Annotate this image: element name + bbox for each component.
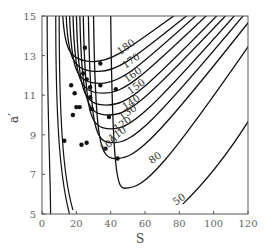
data-point: [115, 156, 119, 160]
y-tick-label: 9: [30, 130, 36, 141]
data-point: [88, 85, 92, 89]
contour-chart: 1801701601501401301201101008050 02040608…: [0, 0, 268, 249]
y-tick-label: 13: [23, 51, 36, 62]
data-point: [83, 45, 87, 49]
data-point: [107, 115, 111, 119]
data-point: [114, 87, 118, 91]
x-tick-label: 100: [204, 218, 223, 229]
x-tick-label: 120: [238, 218, 257, 229]
data-point: [62, 139, 66, 143]
x-axis-title: S: [136, 232, 144, 246]
x-tick-label: 60: [139, 218, 152, 229]
data-point: [84, 141, 88, 145]
y-tick-label: 15: [23, 11, 36, 22]
data-point: [79, 143, 83, 147]
contour-lines: [47, 12, 268, 214]
data-point: [84, 77, 88, 81]
x-tick-label: 20: [70, 218, 83, 229]
contour-label-50: 50: [171, 191, 188, 207]
y-tick-label: 11: [23, 90, 36, 101]
x-tick-label: 0: [39, 218, 45, 229]
data-point: [72, 91, 76, 95]
data-point: [98, 61, 102, 65]
y-axis-title: a′: [7, 113, 21, 123]
y-tick-label: 7: [30, 169, 36, 180]
contour-50: [183, 119, 250, 204]
data-point: [90, 107, 94, 111]
contour-label-80: 80: [147, 150, 164, 166]
y-tick-label: 5: [30, 209, 36, 220]
data-point: [69, 83, 73, 87]
contour-left-branch: [47, 12, 50, 214]
x-tick-label: 80: [173, 218, 186, 229]
data-point: [88, 95, 92, 99]
data-point: [81, 71, 85, 75]
data-point: [78, 105, 82, 109]
data-point: [71, 113, 75, 117]
contour-140: [76, 12, 220, 105]
data-point: [98, 83, 102, 87]
x-tick-label: 40: [104, 218, 117, 229]
